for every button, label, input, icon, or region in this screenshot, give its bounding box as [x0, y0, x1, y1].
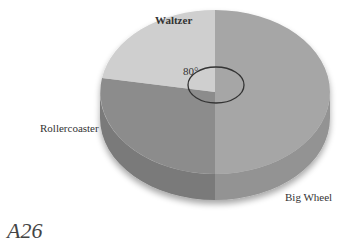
figure-id: A26 — [7, 218, 42, 244]
pie-chart: Waltzer 80° Rollercoaster Big Wheel A26 — [0, 0, 360, 250]
label-rollercoaster: Rollercoaster — [40, 122, 99, 134]
label-waltzer: Waltzer — [155, 14, 192, 26]
label-angle: 80° — [183, 65, 198, 77]
label-big-wheel: Big Wheel — [285, 191, 332, 203]
